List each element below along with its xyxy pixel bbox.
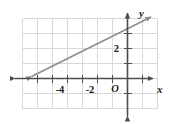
y-axis <box>124 13 132 116</box>
grid-lines <box>23 19 158 109</box>
graph-canvas: -4 -2 2 O y x <box>0 0 169 124</box>
y-tick-label-2: 2 <box>114 43 119 54</box>
x-axis <box>15 75 153 83</box>
origin-label: O <box>111 83 119 94</box>
coordinate-plane-figure: -4 -2 2 O y x <box>0 0 169 124</box>
x-axis-label: x <box>156 83 163 95</box>
x-tick-label-minus2: -2 <box>86 84 95 95</box>
plotted-line <box>32 17 152 77</box>
x-tick-label-minus4: -4 <box>56 84 65 95</box>
y-axis-label: y <box>137 7 144 19</box>
